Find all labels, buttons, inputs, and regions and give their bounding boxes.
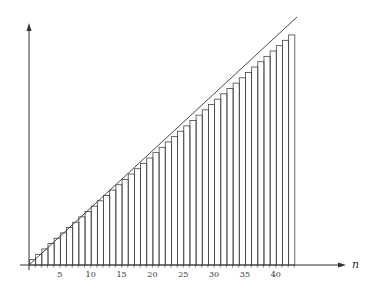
bar [221,94,227,265]
bar [171,137,177,265]
bar [91,206,97,265]
bar [60,233,66,265]
bar [227,88,233,265]
bar [264,56,270,265]
bar [85,212,91,266]
bar [252,67,258,265]
bar [282,40,288,265]
bar [147,158,153,265]
bars [30,35,295,265]
bar [141,163,147,265]
bar [208,105,214,266]
bar [258,62,264,265]
x-tick-label: 15 [116,270,126,279]
bar [190,121,196,265]
bar [67,228,73,265]
x-tick-label: 5 [57,270,62,279]
x-axis-label: n [352,258,359,271]
bar [110,190,116,265]
bar [73,222,79,265]
bar [239,78,245,265]
bar [202,110,208,265]
x-tick-label: 10 [86,270,96,279]
x-tick-label: 30 [209,270,219,279]
x-tick-label: 35 [240,270,250,279]
bar [116,185,122,265]
bar [165,142,171,265]
x-tick-label: 25 [178,270,188,279]
x-axis-arrow-icon [338,263,346,268]
bar [196,115,202,265]
bar [178,131,184,265]
bar [79,217,85,265]
bar [128,174,134,265]
bar [184,126,190,265]
bar [54,238,60,265]
bar [270,51,276,265]
x-ticks: 510152025303540 [35,265,294,279]
bar [122,179,128,265]
bar [215,99,221,265]
bar [97,201,103,265]
diagonal-line [29,17,297,265]
chart: 510152025303540 n [0,0,373,291]
bar [276,46,282,265]
bar [42,249,48,265]
bar [104,195,110,265]
y-axis-arrow-icon [27,23,32,31]
bar [289,35,295,265]
bar [153,153,159,265]
bar [159,147,165,265]
bar [245,72,251,265]
x-tick-label: 40 [271,270,281,279]
x-tick-label: 20 [147,270,157,279]
bar [233,83,239,265]
bar [134,169,140,265]
